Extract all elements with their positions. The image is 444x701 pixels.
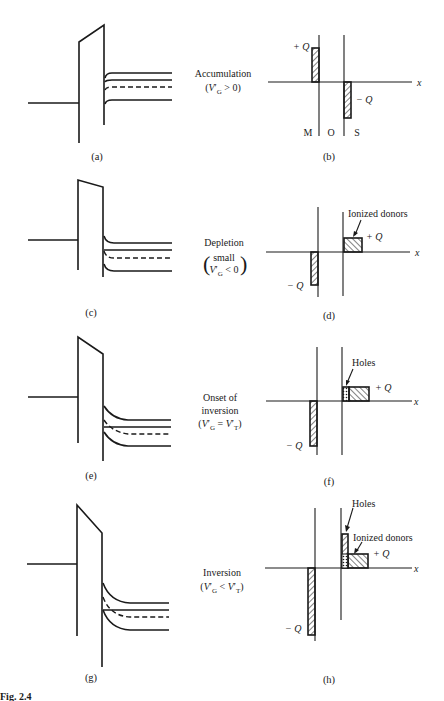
negative-charge-bar	[311, 252, 318, 285]
panel-label-c: (c)	[85, 307, 97, 319]
plus-q-label: + Q	[293, 41, 310, 52]
negative-charge-bar	[310, 401, 317, 446]
holes-pointer	[347, 508, 353, 528]
holes-label: Holes	[352, 357, 375, 368]
panel-label-b: (b)	[323, 151, 336, 163]
minus-q-label: − Q	[286, 440, 303, 451]
valence-band-edge	[104, 264, 172, 271]
condition-title: Inversion	[203, 567, 241, 578]
condition-inversion: Inversion (V′G < V′T)	[200, 567, 243, 595]
condition-expression: (V′G < V′T)	[200, 581, 243, 595]
ionized-donor-charge-box	[344, 238, 362, 252]
x-axis-label: x	[413, 563, 419, 574]
panel-label-e: (e)	[85, 470, 97, 482]
condition-expression: (V′G > 0)	[205, 82, 241, 96]
conduction-band-edge	[104, 406, 171, 420]
panel-f-charge-distribution: Holes + Q − Q x	[266, 347, 419, 455]
minus-q-label: − Q	[356, 94, 373, 105]
mos-band-diagram-figure: (a) Accumulation (V′G > 0) x + Q − Q M O…	[0, 0, 444, 701]
holes-dotted-region	[342, 554, 348, 568]
condition-depletion: Depletion ( small V′G < 0 )	[203, 237, 247, 278]
figure-caption: Fig. 2.4	[0, 691, 31, 701]
condition-title: Accumulation	[195, 68, 252, 79]
positive-charge-bar	[312, 48, 319, 82]
x-axis-label: x	[413, 396, 419, 407]
condition-expression: V′G < 0	[210, 264, 239, 278]
panel-a-band-diagram	[28, 25, 172, 143]
negative-charge-bar	[344, 82, 351, 118]
intrinsic-level	[103, 597, 169, 617]
panel-e-band-diagram	[28, 337, 171, 461]
condition-title-line2: inversion	[201, 405, 238, 416]
arrow-head-icon	[345, 525, 350, 532]
holes-charge-box	[343, 387, 349, 401]
panel-label-h: (h)	[323, 674, 336, 686]
plus-q-label: + Q	[366, 231, 383, 242]
panel-label-g: (g)	[85, 672, 98, 684]
panel-label-f: (f)	[324, 476, 335, 488]
conduction-band-edge	[104, 236, 172, 243]
valence-band-edge	[105, 100, 172, 104]
plus-q-label: + Q	[375, 382, 392, 393]
panel-d-charge-distribution: Ionized donors + Q − Q x	[266, 207, 420, 297]
region-metal: M	[304, 127, 313, 138]
conduction-band-edge	[103, 583, 169, 603]
oxide-barrier	[78, 337, 103, 461]
ionized-donors-label: Ionized donors	[353, 532, 413, 543]
x-axis-label: x	[416, 77, 422, 88]
conduction-band-edge	[105, 73, 172, 78]
oxide-barrier	[77, 505, 102, 667]
arrow-head-icon	[353, 231, 358, 237]
fermi-level	[105, 80, 172, 82]
valence-band-edge	[104, 432, 171, 446]
holes-label: Holes	[352, 498, 375, 509]
right-paren: )	[240, 251, 247, 276]
condition-onset-of-inversion: Onset of inversion (V′G = V′T)	[198, 392, 241, 432]
oxide-barrier	[78, 180, 103, 277]
panel-g-band-diagram	[27, 505, 169, 667]
intrinsic-level	[104, 251, 172, 258]
panel-c-band-diagram	[28, 180, 172, 277]
arrow-head-icon	[346, 380, 350, 386]
panel-label-a: (a)	[91, 151, 103, 163]
ionized-donor-charge-box	[349, 387, 369, 401]
panel-b-charge-distribution: x + Q − Q M O S	[268, 35, 422, 138]
negative-charge-bar	[308, 568, 315, 635]
intrinsic-level	[105, 87, 172, 90]
plus-q-label: + Q	[373, 548, 390, 559]
oxide-barrier	[79, 25, 104, 143]
condition-accumulation: Accumulation (V′G > 0)	[195, 68, 252, 96]
condition-small: small	[213, 252, 235, 263]
x-axis-label: x	[414, 247, 420, 258]
ionized-donors-label: Ionized donors	[348, 208, 408, 219]
condition-expression: (V′G = V′T)	[198, 418, 241, 432]
region-oxide: O	[327, 127, 334, 138]
condition-title: Depletion	[204, 237, 243, 248]
region-semiconductor: S	[354, 127, 360, 138]
panel-label-d: (d)	[323, 310, 336, 322]
condition-title-line1: Onset of	[203, 392, 238, 403]
minus-q-label: − Q	[285, 623, 302, 634]
ionized-donor-charge-box	[348, 554, 368, 568]
valence-band-edge	[103, 610, 169, 630]
minus-q-label: − Q	[287, 280, 304, 291]
panel-h-charge-distribution: Holes Ionized donors + Q − Q x	[265, 498, 419, 641]
